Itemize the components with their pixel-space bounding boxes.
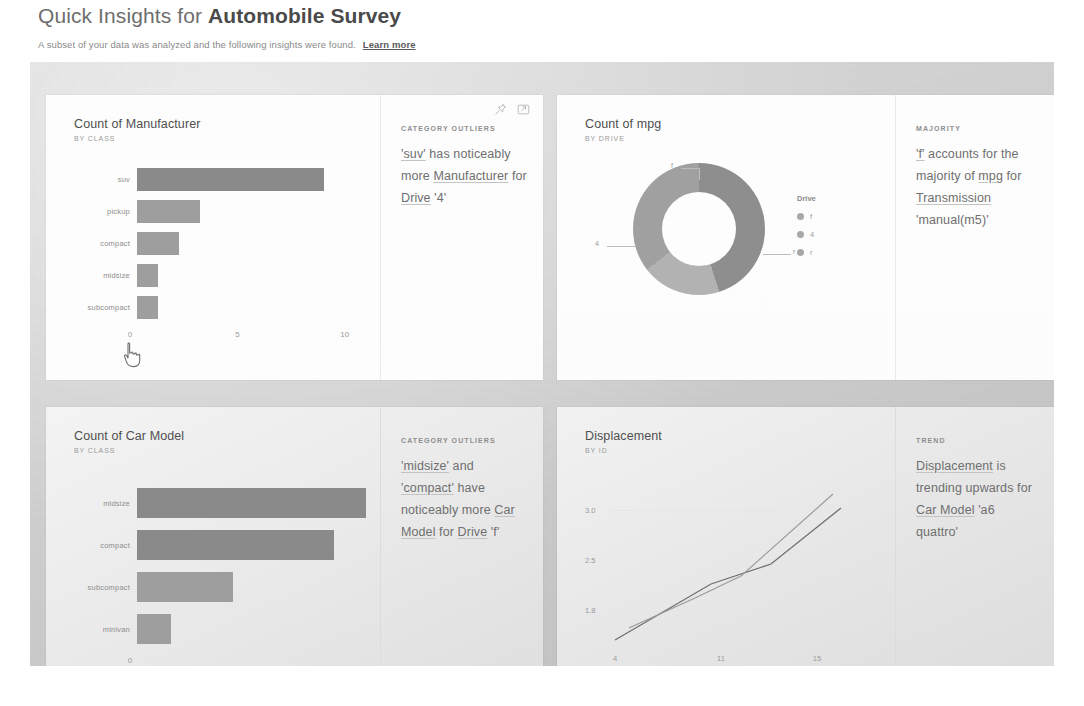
pin-icon[interactable]: [494, 103, 507, 116]
page-title-prefix: Quick Insights for: [38, 4, 208, 27]
x-axis: 0: [130, 654, 366, 666]
insight-entity[interactable]: 'suv': [401, 147, 426, 161]
legend-swatch-icon: [797, 231, 804, 238]
legend-item[interactable]: 4: [797, 230, 816, 239]
chart-subtitle: BY CLASS: [74, 135, 370, 142]
donut-chart-mpg-by-drive: f 4 r Drive f 4: [585, 160, 885, 320]
bar-row[interactable]: suv: [74, 168, 366, 191]
callout-line: [699, 168, 700, 180]
insight-kicker: MAJORITY: [916, 125, 1038, 132]
bar-track: [137, 232, 366, 255]
insight-pane: TREND Displacement is trending upwards f…: [895, 407, 1054, 666]
page-title-dataset: Automobile Survey: [208, 4, 401, 27]
bar-track: [137, 614, 366, 644]
bar-row[interactable]: midsize: [74, 264, 366, 287]
callout-line: [607, 246, 635, 247]
bar-track: [137, 530, 366, 560]
legend-item[interactable]: r: [797, 248, 816, 257]
insight-dimension[interactable]: Transmission: [916, 191, 991, 205]
bar-value[interactable]: [137, 296, 158, 319]
insight-fragment: 'manual(m5)': [916, 213, 989, 227]
bar-value[interactable]: [137, 232, 179, 255]
line-series-group[interactable]: [611, 468, 881, 646]
bar-track: [137, 200, 366, 223]
bar-value[interactable]: [137, 530, 334, 560]
x-tick-label: 4: [613, 654, 617, 663]
y-tick-label: 1.8: [585, 606, 595, 615]
insight-entity[interactable]: 'midsize': [401, 459, 449, 473]
bar-row[interactable]: midsize: [74, 488, 366, 518]
insight-card-count-of-manufacturer[interactable]: Count of Manufacturer BY CLASS suv picku…: [46, 95, 543, 380]
bar-category-label: minivan: [74, 625, 137, 634]
chart-subtitle: BY CLASS: [74, 447, 370, 454]
insight-fragment: for: [436, 525, 458, 539]
focus-mode-icon[interactable]: [517, 103, 530, 116]
chart-subtitle: BY ID: [585, 447, 885, 454]
line-chart-displacement: 3.0 2.5 1.8 4 11 15: [585, 468, 885, 663]
bar-category-label: subcompact: [74, 303, 137, 312]
bar-track: [137, 168, 366, 191]
insight-dimension[interactable]: Car Model: [916, 503, 975, 517]
page-subtitle-text: A subset of your data was analyzed and t…: [38, 39, 356, 50]
bar-value[interactable]: [137, 572, 233, 602]
learn-more-link[interactable]: Learn more: [363, 39, 416, 50]
bar-category-label: subcompact: [74, 583, 137, 592]
legend-label: f: [810, 212, 812, 221]
insight-text: 'suv' has noticeably more Manufacturer f…: [401, 143, 527, 209]
chart-pane: Displacement BY ID 3.0 2.5 1.8 4 11 15: [557, 407, 895, 666]
insight-entity[interactable]: 'compact': [401, 481, 454, 495]
bar-value[interactable]: [137, 264, 158, 287]
chart-pane: Count of mpg BY DRIVE f 4 r Drive: [557, 95, 895, 380]
insight-text: Displacement is trending upwards for Car…: [916, 455, 1038, 543]
chart-title: Count of Car Model: [74, 429, 370, 444]
bar-row[interactable]: compact: [74, 232, 366, 255]
chart-subtitle: BY DRIVE: [585, 135, 885, 142]
legend-item[interactable]: f: [797, 212, 816, 221]
insight-dimension[interactable]: Drive: [458, 525, 488, 539]
insight-measure[interactable]: Displacement: [916, 459, 993, 473]
bar-row[interactable]: minivan: [74, 614, 366, 644]
bar-chart-manufacturer: suv pickup compact midsize: [74, 168, 366, 344]
bar-row[interactable]: subcompact: [74, 296, 366, 319]
bar-value[interactable]: [137, 168, 324, 191]
chart-pane: Count of Manufacturer BY CLASS suv picku…: [46, 95, 380, 380]
chart-title: Count of Manufacturer: [74, 117, 370, 132]
bar-row[interactable]: compact: [74, 530, 366, 560]
insight-measure[interactable]: mpg: [978, 169, 1003, 183]
page-header: Quick Insights for Automobile Survey A s…: [38, 2, 938, 50]
callout-line: [763, 254, 791, 255]
bar-value[interactable]: [137, 614, 171, 644]
page-subtitle: A subset of your data was analyzed and t…: [38, 39, 938, 50]
legend-title: Drive: [797, 194, 816, 203]
insight-dimension[interactable]: Drive: [401, 191, 431, 205]
card-actions: [494, 103, 530, 116]
insight-measure[interactable]: Manufacturer: [433, 169, 508, 183]
insight-pane: MAJORITY 'f' accounts for the majority o…: [895, 95, 1054, 380]
bar-category-label: midsize: [74, 271, 137, 280]
insight-pane: CATEGORY OUTLIERS 'suv' has noticeably m…: [380, 95, 543, 380]
bar-category-label: compact: [74, 541, 137, 550]
bar-row[interactable]: subcompact: [74, 572, 366, 602]
chart-pane: Count of Car Model BY CLASS midsize comp…: [46, 407, 380, 666]
bar-row[interactable]: pickup: [74, 200, 366, 223]
bar-category-label: midsize: [74, 499, 137, 508]
x-axis: 0 5 10: [130, 328, 366, 344]
x-tick-label: 0: [128, 330, 132, 339]
bar-value[interactable]: [137, 200, 200, 223]
y-tick-label: 3.0: [585, 506, 595, 515]
insight-card-count-of-car-model[interactable]: Count of Car Model BY CLASS midsize comp…: [46, 407, 543, 666]
bar-track: [137, 296, 366, 319]
insight-text: 'midsize' and 'compact' have noticeably …: [401, 455, 527, 543]
chart-title: Count of mpg: [585, 117, 885, 132]
bar-track: [137, 572, 366, 602]
legend-swatch-icon: [797, 213, 804, 220]
chart-title: Displacement: [585, 429, 885, 444]
insight-card-count-of-mpg[interactable]: Count of mpg BY DRIVE f 4 r Drive: [557, 95, 1054, 380]
bar-value[interactable]: [137, 488, 366, 518]
donut-legend: Drive f 4 r: [797, 194, 816, 266]
insight-kicker: CATEGORY OUTLIERS: [401, 125, 527, 132]
insight-entity[interactable]: 'f': [916, 147, 925, 161]
line-series-trend: [629, 494, 833, 628]
insight-card-displacement[interactable]: Displacement BY ID 3.0 2.5 1.8 4 11 15: [557, 407, 1054, 666]
x-tick-label: 10: [340, 330, 349, 339]
